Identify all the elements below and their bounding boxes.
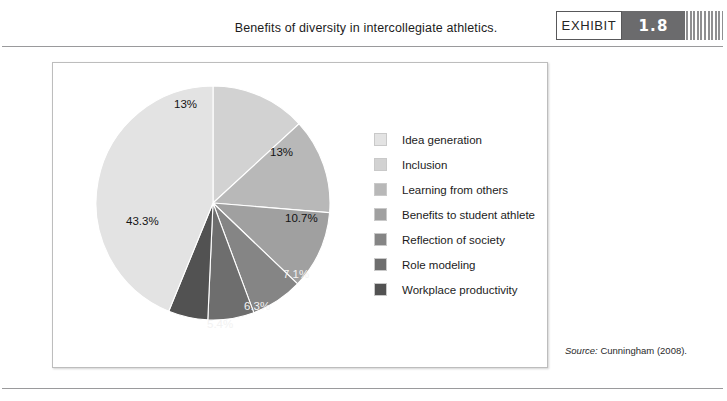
legend-swatch-icon — [374, 183, 387, 196]
legend-item-role-modeling: Role modeling — [374, 252, 535, 277]
legend-label: Workplace productivity — [402, 284, 517, 296]
legend-swatch-icon — [374, 133, 387, 146]
footer-divider-bottom — [2, 388, 723, 389]
legend-swatch-icon — [374, 283, 387, 296]
legend-swatch-icon — [374, 158, 387, 171]
exhibit-number-text: 1.8 — [638, 17, 668, 35]
legend-label: Role modeling — [402, 259, 476, 271]
pie-label-benefits-to-student-athlete: 10.7% — [285, 212, 318, 224]
pie-label-role-modeling: 6.3% — [244, 300, 270, 312]
legend-label: Learning from others — [402, 184, 508, 196]
legend-item-inclusion: Inclusion — [374, 152, 535, 177]
legend-item-workplace-productivity: Workplace productivity — [374, 277, 535, 302]
legend-swatch-icon — [374, 208, 387, 221]
exhibit-page: Benefits of diversity in intercollegiate… — [0, 0, 727, 401]
exhibit-number-box: 1.8 — [622, 11, 685, 40]
legend-label: Benefits to student athlete — [402, 209, 535, 221]
pie-chart-svg — [95, 85, 331, 321]
legend-swatch-icon — [374, 233, 387, 246]
exhibit-label-text: EXHIBIT — [562, 18, 617, 33]
pie-chart — [95, 85, 331, 321]
legend-item-benefits-to-student-athlete: Benefits to student athlete — [374, 202, 535, 227]
chart-legend: Idea generation Inclusion Learning from … — [374, 127, 535, 302]
legend-item-idea-generation: Idea generation — [374, 127, 535, 152]
pie-label-reflection-of-society: 7.1% — [283, 268, 309, 280]
header-divider-top — [2, 46, 723, 47]
pie-label-learning-from-others: 13% — [270, 146, 293, 158]
source-note: Source: Cunningham (2008). — [565, 345, 687, 356]
pie-label-inclusion: 13% — [174, 98, 197, 110]
legend-item-learning-from-others: Learning from others — [374, 177, 535, 202]
exhibit-label-box: EXHIBIT — [556, 11, 622, 40]
page-title: Benefits of diversity in intercollegiate… — [180, 21, 552, 35]
legend-label: Reflection of society — [402, 234, 505, 246]
decorative-stripes — [686, 11, 723, 40]
legend-swatch-icon — [374, 258, 387, 271]
pie-label-workplace-productivity: 5.4% — [207, 318, 233, 330]
source-prefix: Source: — [565, 345, 598, 356]
legend-label: Inclusion — [402, 159, 447, 171]
legend-item-reflection-of-society: Reflection of society — [374, 227, 535, 252]
legend-label: Idea generation — [402, 134, 482, 146]
pie-label-idea-generation: 43.3% — [126, 215, 159, 227]
source-text: Cunningham (2008). — [598, 345, 687, 356]
